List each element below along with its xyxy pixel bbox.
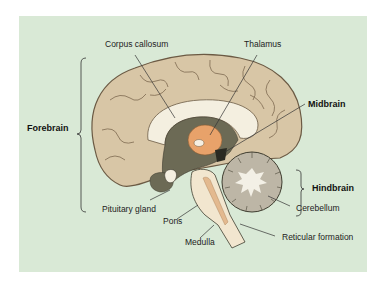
label-medulla: Medulla bbox=[185, 238, 215, 247]
forebrain-bracket bbox=[77, 58, 86, 212]
label-hindbrain: Hindbrain bbox=[312, 184, 354, 193]
label-cerebellum: Cerebellum bbox=[296, 204, 339, 213]
label-pituitary-gland: Pituitary gland bbox=[102, 205, 156, 214]
label-thalamus: Thalamus bbox=[244, 40, 281, 49]
label-midbrain: Midbrain bbox=[308, 100, 346, 109]
label-corpus-callosum: Corpus callosum bbox=[105, 40, 168, 49]
label-pons: Pons bbox=[163, 217, 182, 226]
label-reticular-formation: Reticular formation bbox=[282, 233, 353, 242]
label-forebrain: Forebrain bbox=[27, 124, 69, 133]
pituitary-shape bbox=[165, 169, 177, 182]
